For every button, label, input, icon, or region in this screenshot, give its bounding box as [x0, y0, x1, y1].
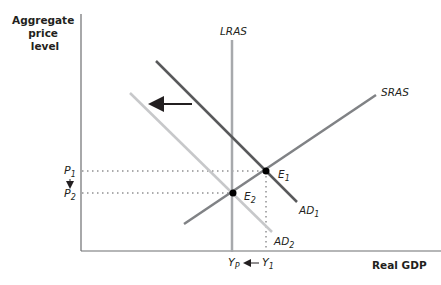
y-axis-label: Aggregate price level: [12, 14, 78, 52]
ad2-label: AD2: [273, 235, 294, 250]
ad1-label: AD1: [298, 204, 319, 219]
yp-label: YP: [228, 256, 240, 271]
x-axis-label: Real GDP: [372, 259, 427, 271]
ad1-curve: [156, 61, 297, 202]
e2-label: E2: [244, 190, 256, 205]
p2-label: P2: [64, 187, 76, 202]
p1-label: P1: [64, 164, 76, 179]
ad-as-chart: Aggregate price level Real GDP LRAS SRAS…: [0, 0, 441, 285]
y1-label: Y1: [262, 256, 274, 271]
e1-label: E1: [278, 168, 290, 183]
e2-point: [230, 190, 237, 197]
e1-point: [263, 168, 270, 175]
lras-label: LRAS: [220, 25, 247, 37]
sras-curve: [184, 95, 376, 224]
sras-label: SRAS: [381, 86, 409, 98]
